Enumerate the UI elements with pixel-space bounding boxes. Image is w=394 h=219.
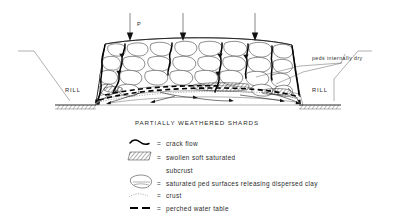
subcrust-patch-left xyxy=(104,87,122,93)
figure-title: PARTIALLY WEATHERED SHARDS xyxy=(135,119,259,126)
rill-left-profile: RILL xyxy=(18,51,96,109)
legend-item-swollen-subcrust: = swollen soft saturated subcrust xyxy=(128,152,236,174)
rill-label-left: RILL xyxy=(65,87,81,93)
flow-arrow-center-3 xyxy=(196,98,234,102)
legend-label-subcrust: subcrust xyxy=(166,167,193,174)
rill-left-hatching xyxy=(55,105,96,109)
load-arrow-1 xyxy=(127,13,133,41)
load-arrows-group: P xyxy=(127,13,258,41)
legend-equals-4: = xyxy=(157,192,161,199)
crust-stipple-icon xyxy=(129,194,148,197)
load-label-p: P xyxy=(137,21,141,27)
legend-item-saturated-ped: = saturated ped surfaces releasing dispe… xyxy=(130,175,318,188)
legend-equals-1: = xyxy=(157,140,161,147)
subcrust-patch-center xyxy=(193,83,249,91)
legend-label-crust: crust xyxy=(166,192,182,199)
legend: = crack flow = swollen soft saturated su… xyxy=(128,140,318,213)
rill-label-right: RILL xyxy=(312,87,328,93)
load-arrow-2 xyxy=(180,13,186,41)
rill-right-hatching xyxy=(299,105,341,109)
legend-label-crack-flow: crack flow xyxy=(166,140,198,147)
ped-blob-icon xyxy=(130,175,151,188)
soil-crust-cross-section-diagram: P RILL xyxy=(0,0,394,219)
hatched-rectangle-icon xyxy=(128,152,151,160)
legend-item-crust: = crust xyxy=(129,192,182,199)
flow-arrow-center-1 xyxy=(150,96,175,103)
legend-label-swollen: swollen soft saturated xyxy=(166,154,236,161)
legend-equals-5: = xyxy=(157,205,161,212)
legend-equals-2: = xyxy=(157,154,161,161)
crack-flow-squiggle-icon xyxy=(130,140,149,144)
load-arrow-3 xyxy=(252,13,258,41)
legend-equals-3: = xyxy=(157,180,161,187)
annotation-peds-label: peds internally dry xyxy=(312,55,363,61)
legend-label-saturated-ped: saturated ped surfaces releasing dispers… xyxy=(166,180,318,188)
legend-label-perched-water: perched water table xyxy=(166,205,229,213)
legend-item-perched-water-table: = perched water table xyxy=(130,205,229,213)
legend-item-crack-flow: = crack flow xyxy=(130,140,198,147)
